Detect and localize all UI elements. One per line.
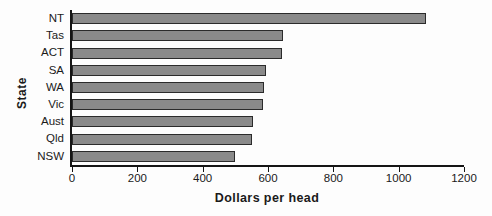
x-axis-tick-label: 200 [128,172,147,184]
y-axis-tick-label: Qld [10,131,67,148]
bar-nt [72,13,426,24]
y-axis-tick-label: SA [10,62,67,79]
bar-act [72,48,282,59]
bar-vic [72,99,263,110]
x-axis-title: Dollars per head [70,191,464,205]
bar-row [72,96,464,113]
y-axis-tick-label: NT [10,10,67,27]
plot-area [70,10,464,165]
bar-aust [72,116,253,127]
bar-row [72,10,464,27]
bar-row [72,62,464,79]
y-axis-tick-label: WA [10,79,67,96]
y-axis-tick-label: ACT [10,44,67,61]
bar-row [72,148,464,165]
y-axis-tick-label: Vic [10,96,67,113]
x-axis-tick-label: 800 [324,172,343,184]
bar-row [72,44,464,61]
bar-wa [72,82,264,93]
bar-sa [72,65,266,76]
x-axis-tick-label: 1000 [386,172,412,184]
x-axis-tick-label: 1200 [451,172,477,184]
bar-row [72,79,464,96]
bar-chart: State NTTasACTSAWAVicAustQldNSW 02004006… [0,0,492,216]
bars-layer [72,10,464,165]
x-axis-tick-label: 600 [258,172,277,184]
bar-tas [72,30,283,41]
y-axis-tick-label: NSW [10,148,67,165]
bar-row [72,131,464,148]
bar-row [72,113,464,130]
bar-row [72,27,464,44]
y-axis-tick-label: Aust [10,113,67,130]
bar-nsw [72,151,235,162]
x-axis-tick-labels: 020040060080010001200 [70,172,464,188]
x-axis-tick-label: 0 [69,172,75,184]
y-axis-tick-label: Tas [10,27,67,44]
bar-qld [72,134,252,145]
x-axis-tick-label: 400 [193,172,212,184]
y-axis-tick-labels: NTTasACTSAWAVicAustQldNSW [10,10,67,165]
